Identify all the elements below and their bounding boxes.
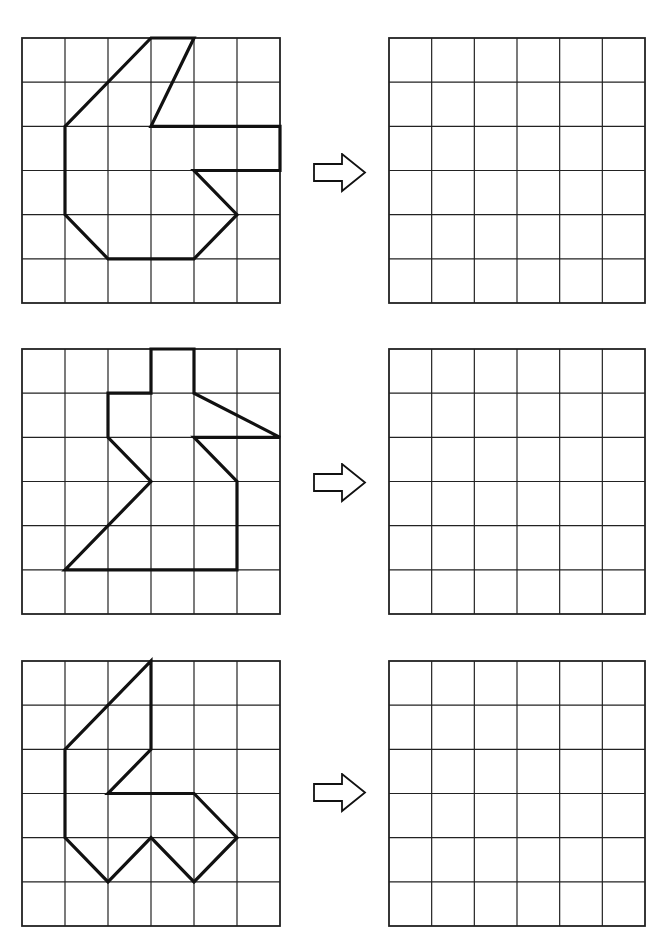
source-grid-3 bbox=[22, 661, 280, 926]
right-arrow-icon bbox=[313, 773, 367, 817]
target-grid-1 bbox=[389, 38, 645, 303]
shape-outline bbox=[65, 349, 280, 570]
right-arrow-icon bbox=[313, 153, 367, 197]
source-grid-1 bbox=[22, 38, 280, 303]
target-grid-3 bbox=[389, 661, 645, 926]
source-grid-2 bbox=[22, 349, 280, 614]
right-arrow-icon bbox=[313, 463, 367, 507]
target-grid-2 bbox=[389, 349, 645, 614]
shape-outline bbox=[65, 38, 280, 259]
